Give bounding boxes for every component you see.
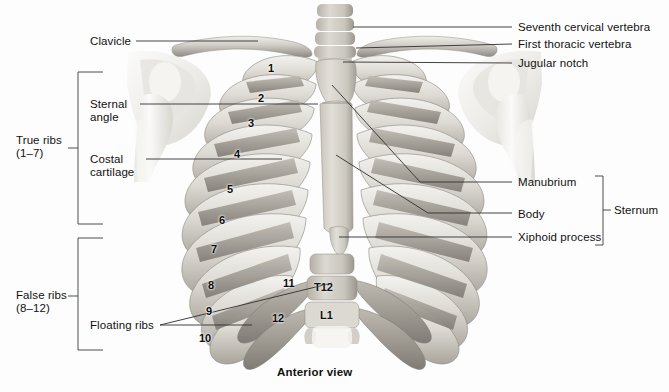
label-t12: T12	[314, 281, 333, 293]
label-seventh-cervical-vertebra: Seventh cervical vertebra	[518, 21, 650, 34]
label-false-ribs: False ribs(8–12)	[16, 289, 67, 315]
skeleton-illustration	[127, 4, 542, 369]
true-ribs-bracket	[78, 72, 103, 224]
rib-number-9: 9	[206, 305, 212, 317]
label-manubrium: Manubrium	[518, 176, 576, 189]
label-first-thoracic-vertebra: First thoracic vertebra	[518, 38, 632, 51]
label-true-ribs-line1: True ribs	[16, 134, 62, 146]
rib-number-10: 10	[199, 332, 211, 344]
rib-number-1: 1	[268, 62, 274, 74]
label-jugular-notch: Jugular notch	[518, 57, 588, 70]
vertebral-column-lower	[304, 254, 359, 348]
label-sternal-angle-line2: angle	[90, 111, 119, 123]
rib-number-6: 6	[219, 214, 225, 226]
rib-number-8: 8	[208, 279, 214, 291]
rib-number-3: 3	[248, 117, 254, 129]
false-ribs-bracket	[78, 238, 103, 350]
figure-caption: Anterior view	[277, 366, 352, 378]
label-costal-cartilage-line1: Costal	[90, 153, 123, 165]
rib-number-11: 11	[283, 277, 295, 289]
rib-number-4: 4	[234, 148, 240, 160]
rib-number-7: 7	[211, 243, 217, 255]
label-sternal-angle-line1: Sternal	[90, 98, 127, 110]
label-true-ribs: True ribs(1–7)	[16, 134, 62, 160]
rib-number-5: 5	[227, 183, 233, 195]
label-costal-cartilage: Costalcartilage	[90, 153, 134, 179]
label-false-ribs-line1: False ribs	[16, 289, 67, 301]
label-clavicle: Clavicle	[90, 35, 131, 48]
rib-number-2: 2	[258, 92, 264, 104]
label-sternum: Sternum	[614, 204, 658, 217]
label-false-ribs-line2: (8–12)	[16, 302, 50, 314]
rib-number-12: 12	[272, 312, 284, 324]
label-sternal-angle: Sternalangle	[90, 98, 127, 124]
label-floating-ribs: Floating ribs	[90, 319, 154, 332]
sternum-bone	[316, 59, 356, 256]
label-xiphoid-process: Xiphoid process	[518, 231, 601, 244]
label-body: Body	[518, 208, 545, 221]
label-l1: L1	[320, 309, 333, 321]
label-costal-cartilage-line2: cartilage	[90, 166, 134, 178]
label-true-ribs-line2: (1–7)	[16, 147, 43, 159]
